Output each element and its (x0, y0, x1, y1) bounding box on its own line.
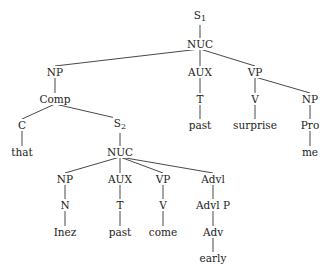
node-label: Adv (203, 226, 223, 238)
tree-node-nuc2: NUC (106, 146, 134, 158)
node-label: Comp (39, 93, 70, 105)
node-label: Advl (201, 173, 225, 185)
node-label: V (159, 199, 167, 211)
tree-node-n: N (59, 199, 70, 211)
tree-edge (120, 157, 163, 173)
node-label: NUC (187, 38, 213, 50)
node-label: that (11, 146, 32, 158)
tree-node-aux1: AUX (187, 66, 213, 78)
tree-node-np1: NP (46, 66, 64, 78)
tree-edge (65, 157, 120, 173)
tree-node-t2: T (115, 199, 124, 211)
node-label: Advl P (196, 199, 230, 211)
tree-node-np3: NP (56, 173, 74, 185)
tree-edge (200, 49, 255, 66)
tree-node-v2: V (158, 199, 168, 211)
tree-node-s1: S1 (193, 9, 207, 25)
node-label: NP (47, 66, 63, 78)
tree-node-surprise: surprise (232, 119, 278, 131)
tree-node-t1: T (195, 93, 204, 105)
node-label: NP (302, 93, 318, 105)
tree-node-past2: past (108, 226, 133, 238)
tree-node-that: that (10, 146, 33, 158)
syntax-tree-diagram: S1NUCNPAUXVPCompTVNPCS2pastsurpriseProth… (0, 0, 326, 273)
node-label: early (200, 252, 227, 264)
tree-node-inez: Inez (53, 226, 78, 238)
tree-node-come: come (148, 226, 178, 238)
tree-node-v1: V (250, 93, 260, 105)
node-label: NUC (107, 146, 133, 158)
node-label: surprise (233, 119, 277, 131)
node-label: past (109, 226, 132, 238)
node-subscript: 2 (121, 122, 126, 131)
node-label: past (189, 119, 212, 131)
tree-node-past1: past (188, 119, 213, 131)
tree-node-advlp: Advl P (195, 199, 231, 211)
tree-edge (255, 77, 310, 93)
tree-node-me: me (301, 146, 319, 158)
node-label: VP (156, 173, 171, 185)
tree-edge (22, 104, 55, 119)
tree-node-early: early (199, 252, 228, 264)
tree-node-s2: S2 (113, 117, 127, 133)
node-label: AUX (108, 173, 132, 185)
node-label: T (196, 93, 203, 105)
tree-node-advl: Advl (200, 173, 226, 185)
node-label: N (60, 199, 69, 211)
tree-node-comp: Comp (38, 93, 71, 105)
tree-node-np2: NP (301, 93, 319, 105)
node-subscript: 1 (201, 14, 206, 23)
tree-node-nuc1: NUC (186, 38, 214, 50)
node-label: NP (57, 173, 73, 185)
tree-node-vp2: VP (155, 173, 172, 185)
node-label: V (251, 93, 259, 105)
node-label: VP (248, 66, 263, 78)
node-label: T (116, 199, 123, 211)
node-label: come (149, 226, 177, 238)
tree-edge (55, 49, 200, 66)
node-label: Pro (301, 119, 319, 131)
node-label: Inez (54, 226, 77, 238)
tree-node-aux2: AUX (107, 173, 133, 185)
node-label: C (18, 119, 26, 131)
tree-node-pro: Pro (300, 119, 320, 131)
tree-node-vp1: VP (247, 66, 264, 78)
tree-edge (55, 104, 120, 119)
tree-node-c: C (17, 119, 27, 131)
node-label: AUX (188, 66, 212, 78)
tree-edge (120, 157, 213, 173)
node-label: me (302, 146, 318, 158)
tree-node-adv: Adv (202, 226, 224, 238)
